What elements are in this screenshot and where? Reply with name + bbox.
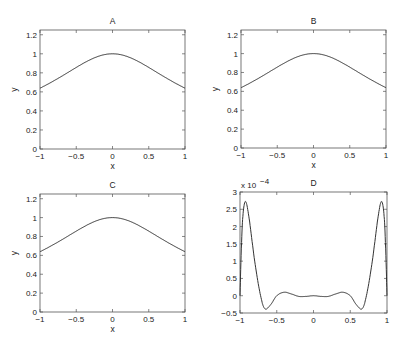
x-tick-label: −0.5 <box>68 315 84 324</box>
y-tick-label: 1 <box>33 50 38 59</box>
subplot-c: −1−0.500.5100.20.40.60.811.2Cxy <box>9 180 188 334</box>
x-axis-label: x <box>110 161 115 171</box>
figure: −1−0.500.5100.20.40.60.811.2Axy−1−0.500.… <box>0 0 408 348</box>
x-tick-label: −0.5 <box>269 151 285 160</box>
axes-box <box>40 30 185 149</box>
y-axis-label: y <box>210 86 220 91</box>
y-tick-label: 1 <box>233 257 238 266</box>
series-line <box>40 54 185 88</box>
y-tick-label: 0.4 <box>227 106 239 115</box>
y-tick-label: 2.5 <box>226 205 238 214</box>
x-axis-label: x <box>110 324 115 334</box>
y-tick-label: −0.5 <box>221 309 237 318</box>
y-axis-label: y <box>9 87 19 92</box>
subplot-title: D <box>310 178 316 188</box>
x-tick-label: 1 <box>385 316 390 325</box>
x-tick-label: 0 <box>311 151 316 160</box>
y-tick-label: 0 <box>234 144 239 153</box>
y-tick-label: 0.4 <box>26 270 38 279</box>
y-tick-label: 0.6 <box>26 251 38 260</box>
y-tick-label: 0.6 <box>26 88 38 97</box>
axes-box <box>40 194 185 312</box>
series-line <box>40 218 185 252</box>
subplot-d: −1−0.500.51−0.500.511.522.53Dx 10−4 <box>221 177 390 325</box>
y-tick-label: 1 <box>33 214 38 223</box>
y-tick-label: 0.2 <box>227 125 239 134</box>
x-tick-label: 0 <box>311 316 316 325</box>
y-tick-label: 0.8 <box>26 232 38 241</box>
y-tick-label: 0.6 <box>227 87 239 96</box>
y-tick-label: 0.5 <box>226 274 238 283</box>
axes-box <box>240 192 387 313</box>
subplot-title: A <box>110 16 116 26</box>
svg-text:−4: −4 <box>260 177 270 186</box>
x-tick-label: 0.5 <box>345 316 357 325</box>
y-tick-label: 3 <box>233 188 238 197</box>
y-tick-label: 0 <box>33 308 38 317</box>
series-line <box>240 201 387 309</box>
y-tick-label: 1.2 <box>26 31 38 40</box>
subplot-title: C <box>109 180 115 190</box>
subplot-b: −1−0.500.5100.20.40.60.811.2Bxy <box>210 16 389 170</box>
y-tick-label: 0.2 <box>26 289 38 298</box>
y-axis-label: y <box>9 250 19 255</box>
x-tick-label: −0.5 <box>68 152 84 161</box>
y-tick-label: 1.2 <box>227 31 239 40</box>
x-tick-label: 0 <box>110 152 115 161</box>
x-tick-label: 0.5 <box>344 151 356 160</box>
axes-box <box>241 30 386 148</box>
y-scale-label: x 10 <box>241 181 257 190</box>
y-tick-label: 1.5 <box>226 240 238 249</box>
y-tick-label: 0 <box>33 145 38 154</box>
series-line <box>241 54 386 88</box>
x-tick-label: 0 <box>110 315 115 324</box>
y-tick-label: 1.2 <box>26 195 38 204</box>
y-tick-label: 1 <box>234 50 239 59</box>
x-axis-label: x <box>311 160 316 170</box>
subplot-title: B <box>311 16 317 26</box>
x-tick-label: 1 <box>183 152 188 161</box>
x-tick-label: 0.5 <box>143 315 155 324</box>
y-tick-label: 2 <box>233 223 238 232</box>
y-tick-label: 0.2 <box>26 126 38 135</box>
y-tick-label: 0.4 <box>26 107 38 116</box>
x-tick-label: 1 <box>183 315 188 324</box>
y-tick-label: 0.8 <box>227 68 239 77</box>
x-tick-label: −0.5 <box>269 316 285 325</box>
y-tick-label: 0.8 <box>26 69 38 78</box>
x-tick-label: 0.5 <box>143 152 155 161</box>
y-tick-label: 0 <box>233 292 238 301</box>
subplot-a: −1−0.500.5100.20.40.60.811.2Axy <box>9 16 188 171</box>
x-tick-label: 1 <box>384 151 389 160</box>
